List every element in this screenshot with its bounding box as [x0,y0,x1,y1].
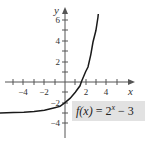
function-label: f(x) = 2x − 3 [76,103,134,119]
fn-name: f(x) [76,104,93,118]
tick-x-2: 2 [84,87,89,97]
y-axis-label: y [53,4,59,16]
tick-x-4: 4 [104,87,109,97]
y-axis-arrow-icon [62,7,68,14]
chart-canvas: −4 −2 2 4 6 4 2 −2 −4 x y [0,0,147,145]
function-curve [0,14,98,113]
tick-y-4: 4 [56,36,61,46]
tick-y-2: 2 [56,57,61,67]
fn-eq: = 2 [93,104,112,118]
tick-x-neg2: −2 [39,87,49,97]
tick-x-neg4: −4 [18,87,28,97]
x-axis-label: x [127,85,133,97]
fn-tail: − 3 [115,104,134,118]
tick-y-6: 6 [56,15,61,25]
tick-y-neg4: −4 [50,118,60,128]
